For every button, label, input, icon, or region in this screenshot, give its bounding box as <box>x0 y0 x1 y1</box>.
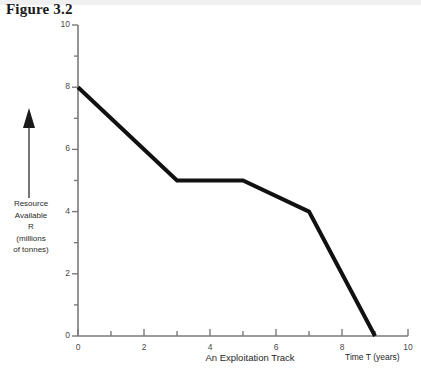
x-tick-label-8: 8 <box>330 342 354 352</box>
data-series-0 <box>78 87 375 336</box>
figure-canvas: Figure 3.2 Resource Available R (million… <box>0 0 421 368</box>
y-tick-label-2: 2 <box>50 268 70 278</box>
exploitation-track-chart <box>0 0 421 368</box>
y-tick-label-8: 8 <box>50 81 70 91</box>
x-tick-label-0: 0 <box>66 342 90 352</box>
x-axis-right-unit-label: Time T (years) <box>345 352 400 362</box>
x-tick-label-2: 2 <box>132 342 156 352</box>
x-tick-label-6: 6 <box>264 342 288 352</box>
y-tick-label-6: 6 <box>50 143 70 153</box>
x-tick-label-4: 4 <box>198 342 222 352</box>
y-tick-label-10: 10 <box>50 19 70 29</box>
y-tick-label-4: 4 <box>50 206 70 216</box>
x-tick-label-10: 10 <box>396 342 420 352</box>
x-axis-center-title: An Exploitation Track <box>185 352 315 363</box>
y-tick-label-0: 0 <box>50 330 70 340</box>
